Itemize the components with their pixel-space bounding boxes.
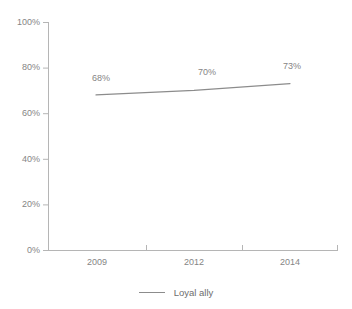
data-label-2009: 68%	[84, 74, 118, 83]
chart-legend: Loyal ally	[0, 288, 352, 298]
legend-swatch-loyal-ally	[139, 292, 165, 293]
y-tick-label-40: 40%	[6, 155, 40, 164]
series-line-loyal-ally	[96, 84, 290, 95]
y-tick-label-60: 60%	[6, 109, 40, 118]
data-label-2014: 73%	[275, 62, 309, 71]
line-chart: 100% 80% 60% 40% 20% 0% 2009 2012 2014 6…	[0, 0, 352, 309]
y-tick-label-0: 0%	[6, 246, 40, 255]
data-label-2012: 70%	[190, 68, 224, 77]
x-tick-label-2012: 2012	[169, 258, 219, 267]
x-tick-label-2009: 2009	[72, 258, 122, 267]
x-tick-label-2014: 2014	[265, 258, 315, 267]
y-tick-label-80: 80%	[6, 63, 40, 72]
y-tick-label-100: 100%	[6, 18, 40, 27]
y-tick-label-20: 20%	[6, 200, 40, 209]
y-axis-ticks	[43, 23, 48, 251]
legend-label-loyal-ally: Loyal ally	[174, 288, 214, 298]
x-axis-ticks	[49, 245, 338, 250]
